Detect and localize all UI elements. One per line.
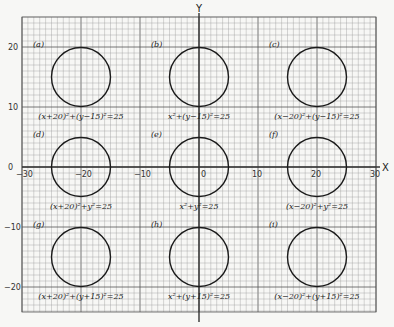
y-tick-label: −10: [4, 223, 21, 232]
circle-equation: (x+20)²+y²=25: [50, 202, 112, 211]
y-tick-label: 10: [8, 103, 18, 112]
circle-equation: x²+y²=25: [179, 202, 218, 211]
circle-tag: (a): [33, 40, 44, 49]
circle-group: (d)(x+20)²+y²=25: [33, 130, 112, 211]
circle-tag: (b): [151, 40, 162, 49]
y-tick-label: −20: [4, 283, 21, 292]
x-tick-label: 0: [201, 170, 206, 179]
circle-tag: (c): [269, 40, 280, 49]
circle-group: (g)(x+20)²+(y+15)²=25: [33, 220, 124, 301]
axes: XY: [22, 3, 389, 322]
circle-tag: (h): [151, 220, 162, 229]
circle-equation: (x+20)²+(y+15)²=25: [38, 292, 123, 301]
circle-group: (i)(x−20)²+(y+15)²=25: [269, 220, 360, 301]
x-tick-label: 20: [311, 170, 321, 179]
circle-group: (c)(x−20)²+(y−15)²=25: [269, 40, 360, 121]
y-tick-label: 20: [8, 43, 18, 52]
circle-equation: x²+(y+15)²=25: [168, 292, 230, 301]
circle-tag: (i): [269, 220, 278, 229]
x-tick-label: 10: [252, 170, 262, 179]
circle-group: (f)(x−20)²+y²=25: [269, 130, 348, 211]
circle-equation: x²+(y−15)²=25: [168, 112, 230, 121]
circle-group: (h)x²+(y+15)²=25: [151, 220, 230, 301]
circle-equation: (x−20)²+y²=25: [286, 202, 348, 211]
circle-group: (b)x²+(y−15)²=25: [151, 40, 230, 121]
y-axis-label: Y: [195, 3, 203, 14]
circle-tag: (f): [269, 130, 278, 139]
circle-tag: (g): [33, 220, 44, 229]
circle-equation: (x−20)²+(y−15)²=25: [274, 112, 359, 121]
x-tick-label: −20: [75, 170, 92, 179]
x-tick-label: −30: [16, 170, 33, 179]
x-tick-label: −10: [134, 170, 151, 179]
x-tick-label: 30: [370, 170, 380, 179]
circles-chart: XY −30−20−10010203020100−10−20 (a)(x+20)…: [0, 0, 394, 327]
circle-group: (a)(x+20)²+(y−15)²=25: [33, 40, 124, 121]
circle-tag: (e): [151, 130, 162, 139]
circle-equation: (x−20)²+(y+15)²=25: [274, 292, 359, 301]
circle-equation: (x+20)²+(y−15)²=25: [38, 112, 123, 121]
y-tick-label: 0: [8, 163, 13, 172]
x-axis-label: X: [382, 162, 389, 173]
circle-tag: (d): [33, 130, 44, 139]
